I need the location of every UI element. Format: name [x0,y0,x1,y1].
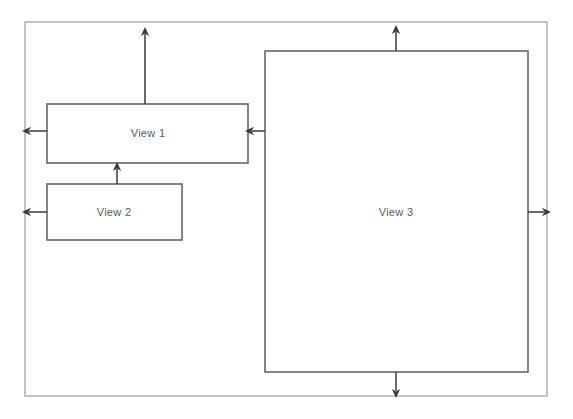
box-view-3[interactable] [265,51,528,372]
arrow-view3-up [392,25,400,51]
arrow-view2-to-view1 [113,162,121,184]
diagram-svg [0,0,573,419]
diagram-canvas: View 1View 2View 3 [0,0,573,419]
box-view-1[interactable] [47,104,248,163]
view-boxes-group [47,51,528,372]
arrow-view3-down [392,372,400,398]
arrow-view1-up [141,27,149,104]
box-view-2[interactable] [47,184,182,240]
